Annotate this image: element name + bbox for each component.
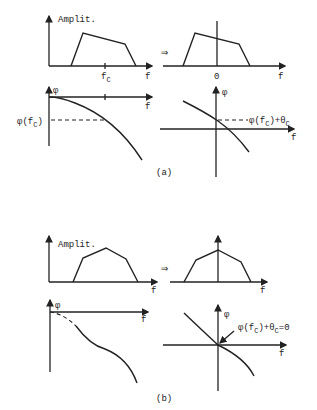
phase-left-plot-b: φ f [50,300,148,383]
f-axis-label: f [260,286,265,296]
panel-b: Amplit. f ⇒ f φ f φ f φ [49,236,290,404]
f-axis-label: f [279,349,284,359]
frequency-phase-diagram: Amplit. fC f ⇒ 0 f φ f φ(fC) [0,0,317,410]
phase-right-plot-b: φ f φ(fC)+θC=0 [163,305,290,391]
amplitude-label: Amplit. [58,15,96,25]
f-axis-label: f [141,315,146,325]
phi-label: φ [224,310,230,320]
phi-label: φ [55,301,61,311]
caption-a: (a) [156,168,172,178]
transform-arrow-icon: ⇒ [161,46,168,60]
f-axis-label: f [278,72,283,82]
transform-arrow-icon: ⇒ [161,262,168,276]
origin-label: 0 [214,72,219,82]
phi-fc-label: φ(fC) [17,117,43,129]
phi-label: φ [222,88,228,98]
f-axis-label: f [151,286,156,296]
amplitude-left-plot-b: Amplit. f [49,236,157,296]
amplitude-right-plot-b: f [170,236,267,296]
amplitude-left-plot-a: Amplit. fC f [49,15,152,84]
f-axis-label: f [291,133,296,143]
amplitude-right-plot-a: 0 f [163,21,285,82]
zero-phase-annotation: φ(fC)+θC=0 [238,323,290,335]
phase-right-plot-a: φ f φ(fC)+θC [160,87,296,177]
f-axis-label: f [145,102,150,112]
phase-left-plot-a: φ f φ(fC) [17,86,152,160]
phase-offset-annotation: φ(fC)+θC [249,116,290,128]
phi-label: φ [53,86,59,96]
caption-b: (b) [156,394,172,404]
amplitude-label: Amplit. [58,240,96,250]
fc-tick-label: fC [101,72,111,84]
panel-a: Amplit. fC f ⇒ 0 f φ f φ(fC) [17,15,296,178]
f-axis-label: f [145,72,150,82]
